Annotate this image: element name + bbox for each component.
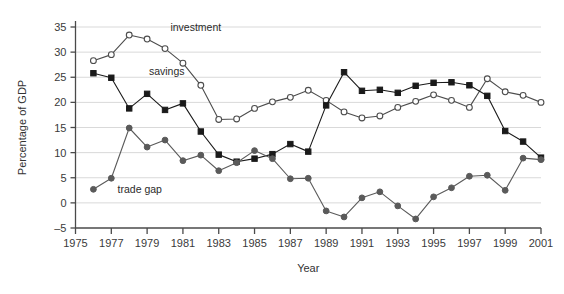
point-savings-1990 xyxy=(341,70,346,75)
point-trade-gap-1996 xyxy=(449,185,455,191)
point-trade-gap-1982 xyxy=(198,152,204,158)
point-savings-1994 xyxy=(413,83,418,88)
x-axis-title: Year xyxy=(297,262,320,274)
point-savings-1978 xyxy=(127,106,132,111)
point-savings-1995 xyxy=(431,80,436,85)
point-investment-1994 xyxy=(413,98,419,104)
point-investment-1999 xyxy=(502,89,508,95)
y-tick-label-0: 0 xyxy=(60,197,66,209)
point-investment-1992 xyxy=(377,113,383,119)
x-tick-label-1975: 1975 xyxy=(63,237,87,249)
point-investment-1984 xyxy=(234,116,240,122)
x-tick-label-1997: 1997 xyxy=(457,237,481,249)
point-trade-gap-1993 xyxy=(395,203,401,209)
point-trade-gap-1994 xyxy=(413,216,419,222)
point-trade-gap-1983 xyxy=(216,168,222,174)
point-trade-gap-1980 xyxy=(162,137,168,143)
point-savings-2000 xyxy=(520,139,525,144)
x-tick-label-1989: 1989 xyxy=(314,237,338,249)
point-trade-gap-1986 xyxy=(270,156,276,162)
point-trade-gap-2000 xyxy=(520,155,526,161)
point-investment-1991 xyxy=(359,115,365,121)
y-tick-label-15: 15 xyxy=(54,122,66,134)
point-trade-gap-1979 xyxy=(144,144,150,150)
point-investment-1976 xyxy=(91,58,97,64)
line-chart: –505101520253035 19751977197919811983198… xyxy=(0,0,564,294)
series-trade-gap xyxy=(91,125,544,222)
point-savings-1989 xyxy=(323,103,328,108)
point-savings-1980 xyxy=(162,107,167,112)
y-tick-label--5: –5 xyxy=(54,222,66,234)
point-trade-gap-2001 xyxy=(538,157,544,163)
point-savings-1982 xyxy=(198,129,203,134)
point-trade-gap-1978 xyxy=(126,125,132,131)
point-trade-gap-1985 xyxy=(252,148,258,154)
x-tick-labels: 1975197719791981198319851987198919911993… xyxy=(63,237,553,249)
point-trade-gap-1984 xyxy=(234,160,240,166)
point-investment-1985 xyxy=(252,106,258,112)
point-trade-gap-1997 xyxy=(466,173,472,179)
point-investment-1996 xyxy=(449,97,455,103)
x-tick-label-1995: 1995 xyxy=(421,237,445,249)
point-trade-gap-1981 xyxy=(180,158,186,164)
point-investment-1977 xyxy=(108,52,114,58)
point-savings-1997 xyxy=(467,83,472,88)
series-annotation-savings: savings xyxy=(149,65,185,77)
point-savings-1987 xyxy=(288,141,293,146)
point-investment-1988 xyxy=(305,87,311,93)
point-trade-gap-1988 xyxy=(305,175,311,181)
point-investment-1986 xyxy=(270,99,276,105)
point-trade-gap-1992 xyxy=(377,189,383,195)
point-investment-1993 xyxy=(395,105,401,111)
x-tick-label-1981: 1981 xyxy=(171,237,195,249)
y-tick-label-25: 25 xyxy=(54,71,66,83)
point-investment-2001 xyxy=(538,99,544,105)
point-investment-1979 xyxy=(144,36,150,42)
x-tick-label-1993: 1993 xyxy=(386,237,410,249)
x-tick-label-2001: 2001 xyxy=(529,237,553,249)
point-savings-1985 xyxy=(252,156,257,161)
x-tick-label-1987: 1987 xyxy=(278,237,302,249)
x-tick-label-1991: 1991 xyxy=(350,237,374,249)
point-savings-1998 xyxy=(485,93,490,98)
point-investment-1983 xyxy=(216,117,222,123)
point-investment-1997 xyxy=(466,105,472,111)
point-investment-1982 xyxy=(198,82,204,88)
series-annotation-trade-gap: trade gap xyxy=(118,183,163,195)
point-investment-1998 xyxy=(484,76,490,82)
point-investment-1978 xyxy=(126,32,132,38)
point-savings-1976 xyxy=(91,71,96,76)
x-tick-label-1979: 1979 xyxy=(135,237,159,249)
point-investment-2000 xyxy=(520,92,526,98)
point-savings-1979 xyxy=(144,91,149,96)
point-trade-gap-1999 xyxy=(502,187,508,193)
point-investment-1995 xyxy=(431,92,437,98)
point-trade-gap-1995 xyxy=(431,194,437,200)
point-savings-1991 xyxy=(359,88,364,93)
y-tick-label-20: 20 xyxy=(54,96,66,108)
y-tick-labels: –505101520253035 xyxy=(54,21,66,234)
x-tick-label-1985: 1985 xyxy=(242,237,266,249)
y-tick-label-35: 35 xyxy=(54,21,66,33)
y-tick-label-10: 10 xyxy=(54,147,66,159)
point-investment-1990 xyxy=(341,109,347,115)
point-savings-1983 xyxy=(216,152,221,157)
series-savings xyxy=(91,70,544,165)
x-tick-label-1977: 1977 xyxy=(99,237,123,249)
point-trade-gap-1991 xyxy=(359,195,365,201)
point-trade-gap-1989 xyxy=(323,208,329,214)
point-savings-1996 xyxy=(449,80,454,85)
y-axis-title: Percentage of GDP xyxy=(16,80,28,175)
chart-container: –505101520253035 19751977197919811983198… xyxy=(0,0,564,294)
point-savings-1977 xyxy=(109,75,114,80)
point-trade-gap-1990 xyxy=(341,214,347,220)
point-investment-1987 xyxy=(287,94,293,100)
point-savings-1988 xyxy=(306,149,311,154)
x-tick-label-1999: 1999 xyxy=(493,237,517,249)
x-tick-label-1983: 1983 xyxy=(206,237,230,249)
point-savings-1981 xyxy=(180,101,185,106)
point-trade-gap-1987 xyxy=(287,176,293,182)
point-trade-gap-1976 xyxy=(91,186,97,192)
point-investment-1980 xyxy=(162,46,168,52)
y-tick-label-30: 30 xyxy=(54,46,66,58)
